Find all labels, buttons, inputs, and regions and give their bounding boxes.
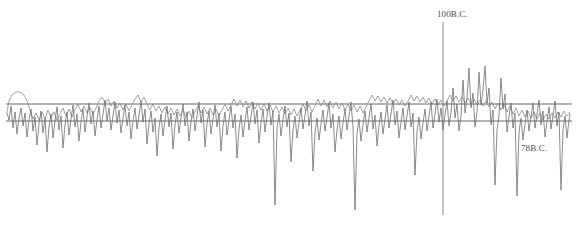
series-jagged-series	[7, 66, 570, 210]
annotation-label-100bc: 100B.C.	[437, 10, 468, 19]
annotation-label-78bc: 78B.C.	[521, 144, 547, 153]
chart-figure: 100B.C. 78B.C.	[0, 0, 584, 227]
chart-plot-area	[0, 0, 584, 227]
data-series-group	[7, 66, 570, 210]
